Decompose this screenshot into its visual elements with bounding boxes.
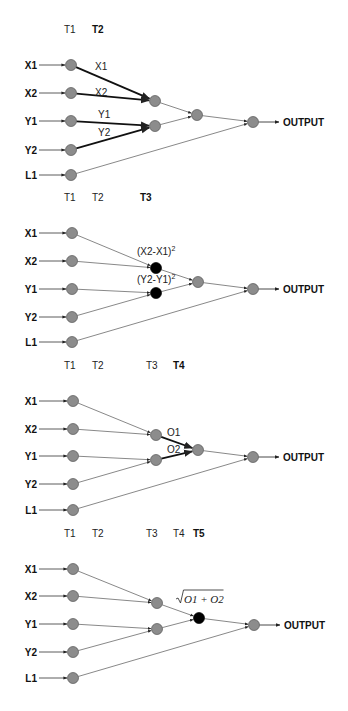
input-node-l1 — [68, 673, 79, 684]
panel-3: T1T2T3T4X1X2Y1Y2L1O1O2OUTPUT — [25, 360, 324, 516]
output-label: OUTPUT — [284, 620, 325, 631]
input-label-x1: X1 — [25, 564, 38, 575]
edge-y1-to-h2 — [78, 624, 151, 628]
time-label-t3: T3 — [146, 360, 158, 371]
input-node-y2 — [67, 312, 78, 323]
hidden-node-h3-active — [194, 613, 205, 624]
network-timing-diagram: T1T2X1X2Y1Y2L1X1X2Y1Y2OUTPUTT1T2T3X1X2Y1… — [0, 0, 348, 711]
input-node-y2 — [68, 479, 79, 490]
input-label-x1: X1 — [25, 228, 38, 239]
input-label-l1: L1 — [25, 673, 37, 684]
input-node-y2 — [68, 647, 79, 658]
hidden-node-h1 — [152, 598, 163, 609]
time-label-t1: T1 — [64, 24, 76, 35]
edge-y2-to-h2 — [77, 295, 150, 316]
output-node — [248, 117, 259, 128]
panel-1: T1T2X1X2Y1Y2L1X1X2Y1Y2OUTPUT — [25, 24, 324, 181]
hidden-node-h3 — [193, 277, 204, 288]
input-node-x2 — [68, 424, 79, 435]
edge-y2-to-h2 — [76, 128, 149, 149]
edge-y1-to-h2 — [77, 289, 150, 292]
input-label-y2: Y2 — [25, 647, 38, 658]
hidden-node-h1-active — [151, 263, 162, 274]
time-label-t4: T4 — [173, 360, 185, 371]
edge-h3-to-out — [202, 116, 247, 122]
input-node-l1 — [67, 337, 78, 348]
output-node — [248, 452, 259, 463]
input-node-x2 — [66, 88, 77, 99]
time-label-t2: T2 — [92, 192, 104, 203]
output-node — [248, 284, 259, 295]
edge-h3-to-out — [204, 619, 248, 625]
time-label-t2: T2 — [92, 528, 104, 539]
edge-label: O2 — [167, 444, 181, 455]
time-label-t2: T2 — [92, 24, 104, 35]
edge-l1-to-out — [78, 459, 247, 509]
input-label-l1: L1 — [25, 337, 37, 348]
sqrt-formula-label: O1 + O2 — [184, 593, 224, 605]
time-label-t2: T2 — [92, 360, 104, 371]
edge-x2-to-h1 — [78, 429, 150, 434]
edge-l1-to-out — [77, 291, 247, 341]
input-node-x2 — [67, 256, 78, 267]
edge-y1-to-h2 — [78, 456, 150, 459]
input-label-x2: X2 — [25, 256, 38, 267]
input-label-y2: Y2 — [25, 145, 38, 156]
diagram-svg: T1T2X1X2Y1Y2L1X1X2Y1Y2OUTPUTT1T2T3X1X2Y1… — [0, 0, 348, 711]
edge-x2-to-h1 — [77, 261, 150, 267]
panel-2: T1T2T3X1X2Y1Y2L1OUTPUT(X2-X1)2(Y2-Y1)2 — [25, 192, 324, 348]
hidden-node-h2 — [152, 624, 163, 635]
input-node-l1 — [68, 505, 79, 516]
time-label-t3: T3 — [146, 528, 158, 539]
time-label-t1: T1 — [64, 192, 76, 203]
hidden-node-h2-active — [151, 288, 162, 299]
input-label-y1: Y1 — [25, 619, 38, 630]
edge-x2-to-h1 — [78, 596, 151, 602]
input-label-l1: L1 — [25, 170, 37, 181]
input-node-y2 — [66, 145, 77, 156]
input-node-x1 — [68, 396, 79, 407]
edge-l1-to-out — [78, 627, 248, 677]
formula-label: (X2-X1)2 — [137, 245, 175, 257]
hidden-node-h2 — [151, 455, 162, 466]
hidden-node-h2 — [150, 121, 161, 132]
time-label-t1: T1 — [64, 528, 76, 539]
input-label-y1: Y1 — [25, 451, 38, 462]
input-node-y1 — [68, 451, 79, 462]
input-label-x2: X2 — [25, 424, 38, 435]
output-label: OUTPUT — [283, 117, 324, 128]
edge-label: X2 — [95, 87, 108, 98]
output-node — [249, 620, 260, 631]
edge-h2-to-h3 — [162, 620, 193, 628]
input-node-x1 — [66, 60, 77, 71]
edge-label: Y2 — [98, 127, 111, 138]
panel-4: T1T2T3T4T5X1X2Y1Y2L1OUTPUTO1 + O2 — [25, 528, 325, 684]
hidden-node-h3 — [192, 110, 203, 121]
input-label-y2: Y2 — [25, 312, 38, 323]
edge-y1-to-h2 — [76, 121, 149, 125]
input-label-x1: X1 — [25, 60, 38, 71]
input-node-x1 — [67, 228, 78, 239]
input-label-y1: Y1 — [25, 116, 38, 127]
edge-h3-to-out — [203, 283, 247, 289]
edge-x1-to-h1 — [78, 571, 151, 601]
input-label-l1: L1 — [25, 505, 37, 516]
hidden-node-h1 — [151, 430, 162, 441]
edge-h2-to-h3 — [160, 117, 191, 125]
output-label: OUTPUT — [283, 284, 324, 295]
input-node-y1 — [67, 284, 78, 295]
input-node-y1 — [68, 619, 79, 630]
edge-x1-to-h1 — [78, 403, 150, 433]
time-label-t1: T1 — [64, 360, 76, 371]
edge-label: X1 — [95, 61, 108, 72]
input-node-y1 — [66, 116, 77, 127]
edge-label: O1 — [167, 427, 181, 438]
hidden-node-h1 — [150, 96, 161, 107]
input-node-x1 — [68, 564, 79, 575]
input-label-y1: Y1 — [25, 284, 38, 295]
input-label-x2: X2 — [25, 88, 38, 99]
input-label-y2: Y2 — [25, 479, 38, 490]
input-label-x2: X2 — [25, 591, 38, 602]
edge-h3-to-out — [203, 451, 247, 457]
hidden-node-h3 — [193, 445, 204, 456]
